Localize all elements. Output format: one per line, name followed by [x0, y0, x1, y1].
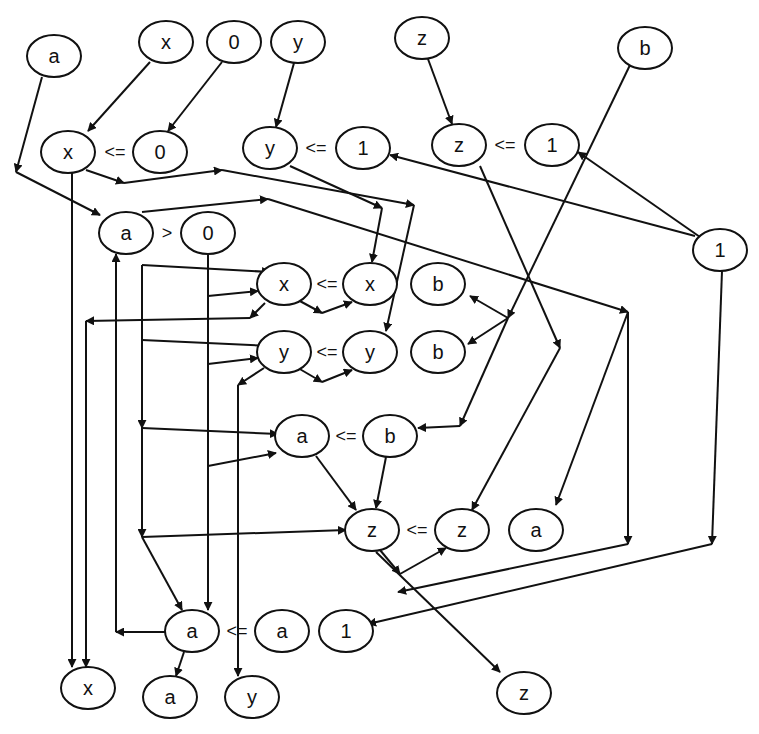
edge-arrow: [208, 358, 258, 364]
node-c2-y: y: [243, 127, 297, 169]
node-label: a: [276, 620, 288, 642]
node-out-y: y: [225, 676, 279, 718]
edge-arrow: [168, 62, 222, 131]
edge-arrow: [142, 265, 270, 272]
node-label: a: [48, 45, 60, 67]
node-label: x: [63, 141, 73, 163]
edge-arrow: [86, 318, 250, 321]
node-a2-y: y: [257, 331, 311, 373]
node-a1-x: x: [257, 263, 311, 305]
node-label: 1: [357, 137, 368, 159]
node-label: 0: [202, 222, 213, 244]
operator-label: <=: [226, 621, 247, 641]
node-a3-a: a: [275, 415, 329, 457]
node-label: b: [384, 425, 395, 447]
node-label: z: [367, 519, 377, 541]
node-in-0: 0: [207, 21, 261, 63]
node-k-1: 1: [693, 229, 747, 271]
edge-arrow: [578, 152, 700, 237]
node-label: z: [417, 27, 427, 49]
node-label: a: [120, 222, 132, 244]
node-out-a-mid: a: [509, 509, 563, 551]
node-label: x: [83, 677, 93, 699]
node-label: x: [161, 31, 171, 53]
edge-arrow: [208, 291, 258, 296]
node-a2-yr: y: [343, 331, 397, 373]
node-b-mid: b: [411, 331, 465, 373]
edge-arrow: [386, 205, 414, 331]
nodes-layer: ax0yzbx0y1z11a0xxbyybabzzaaa1xayz: [27, 17, 747, 718]
node-label: 0: [228, 31, 239, 53]
node-label: y: [265, 137, 275, 159]
edge-arrow: [142, 199, 268, 212]
edge-arrow: [316, 456, 356, 510]
operator-label: <=: [104, 142, 125, 162]
edge-arrow: [368, 544, 712, 624]
node-a3-b: b: [363, 415, 417, 457]
edge-arrow: [418, 426, 460, 428]
edge-arrow: [298, 300, 322, 313]
node-out-a: a: [143, 676, 197, 718]
node-c2-1: 1: [336, 127, 390, 169]
dataflow-diagram: <=<=<=><=<=<=<=<= ax0yzbx0y1z11a0xxbyyba…: [0, 0, 759, 734]
edge-arrow: [142, 537, 182, 610]
node-label: b: [432, 273, 443, 295]
edge-arrow: [142, 530, 346, 537]
node-label: 1: [340, 620, 351, 642]
edge-arrow: [250, 303, 265, 318]
node-out-x: x: [61, 667, 115, 709]
edge-arrow: [208, 453, 276, 466]
node-out-z: z: [497, 672, 551, 714]
node-label: x: [279, 273, 289, 295]
edge-arrow: [298, 368, 322, 382]
edge-arrow: [400, 548, 446, 574]
operator-label: <=: [406, 520, 427, 540]
edge-arrow: [322, 302, 352, 313]
edge-arrow: [376, 457, 386, 508]
node-in-y: y: [271, 21, 325, 63]
edge-arrow: [88, 62, 150, 131]
edge-arrow: [470, 296, 508, 318]
node-label: x: [365, 273, 375, 295]
node-label: 0: [154, 141, 165, 163]
operator-label: <=: [316, 274, 337, 294]
node-c1-x: x: [41, 131, 95, 173]
node-in-z: z: [395, 17, 449, 59]
edge-arrow: [16, 172, 100, 215]
edge-arrow: [142, 428, 278, 434]
node-label: 1: [546, 134, 557, 156]
edge-arrow: [124, 170, 222, 183]
node-g-a: a: [99, 212, 153, 254]
edge-arrow: [322, 370, 352, 382]
node-a5-ar: a: [255, 610, 309, 652]
node-out-1: 1: [319, 610, 373, 652]
edge-arrow: [142, 340, 270, 346]
node-g-0: 0: [181, 212, 235, 254]
node-label: a: [186, 620, 198, 642]
edge-arrow: [380, 550, 400, 574]
edge-arrow: [480, 166, 560, 348]
node-a1-xr: x: [343, 263, 397, 305]
node-c1-0: 0: [133, 131, 187, 173]
operators-layer: <=<=<=><=<=<=<=<=: [104, 135, 515, 641]
edge-arrow: [398, 544, 628, 592]
node-label: 1: [714, 239, 725, 261]
edge-arrow: [390, 155, 695, 236]
node-label: y: [247, 686, 257, 708]
node-c3-1: 1: [525, 124, 579, 166]
node-b-top: b: [411, 263, 465, 305]
edge-arrow: [16, 77, 42, 172]
node-in-x: x: [139, 21, 193, 63]
edge-arrow: [176, 652, 184, 676]
edge-arrow: [276, 63, 294, 127]
edge-arrow: [86, 170, 124, 183]
node-label: b: [432, 341, 443, 363]
node-in-a: a: [27, 35, 81, 77]
edge-arrow: [290, 166, 382, 208]
edge-arrow: [712, 271, 722, 544]
edge-arrow: [238, 368, 264, 385]
edge-arrow: [376, 552, 500, 672]
node-label: y: [365, 341, 375, 363]
node-label: z: [457, 519, 467, 541]
node-a5-a: a: [165, 610, 219, 652]
